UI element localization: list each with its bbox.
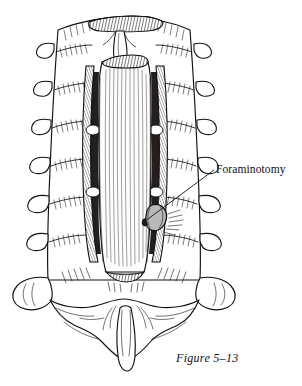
- foraminotomy-window: [146, 204, 167, 230]
- figure-caption: Figure 5–13: [176, 351, 239, 366]
- figure-page: Foraminotomy Figure 5–13: [0, 0, 302, 386]
- left-facet-1: [86, 125, 100, 135]
- left-transverse-process-3: [32, 119, 51, 134]
- spine-illustration: [0, 0, 302, 386]
- right-transverse-process-3: [197, 119, 216, 134]
- left-facet-2: [86, 187, 100, 197]
- dural-sac: [99, 55, 151, 282]
- left-transverse-process-4: [30, 157, 50, 173]
- median-sacral-crest: [117, 306, 135, 371]
- foraminotomy-label: Foraminotomy: [216, 163, 286, 175]
